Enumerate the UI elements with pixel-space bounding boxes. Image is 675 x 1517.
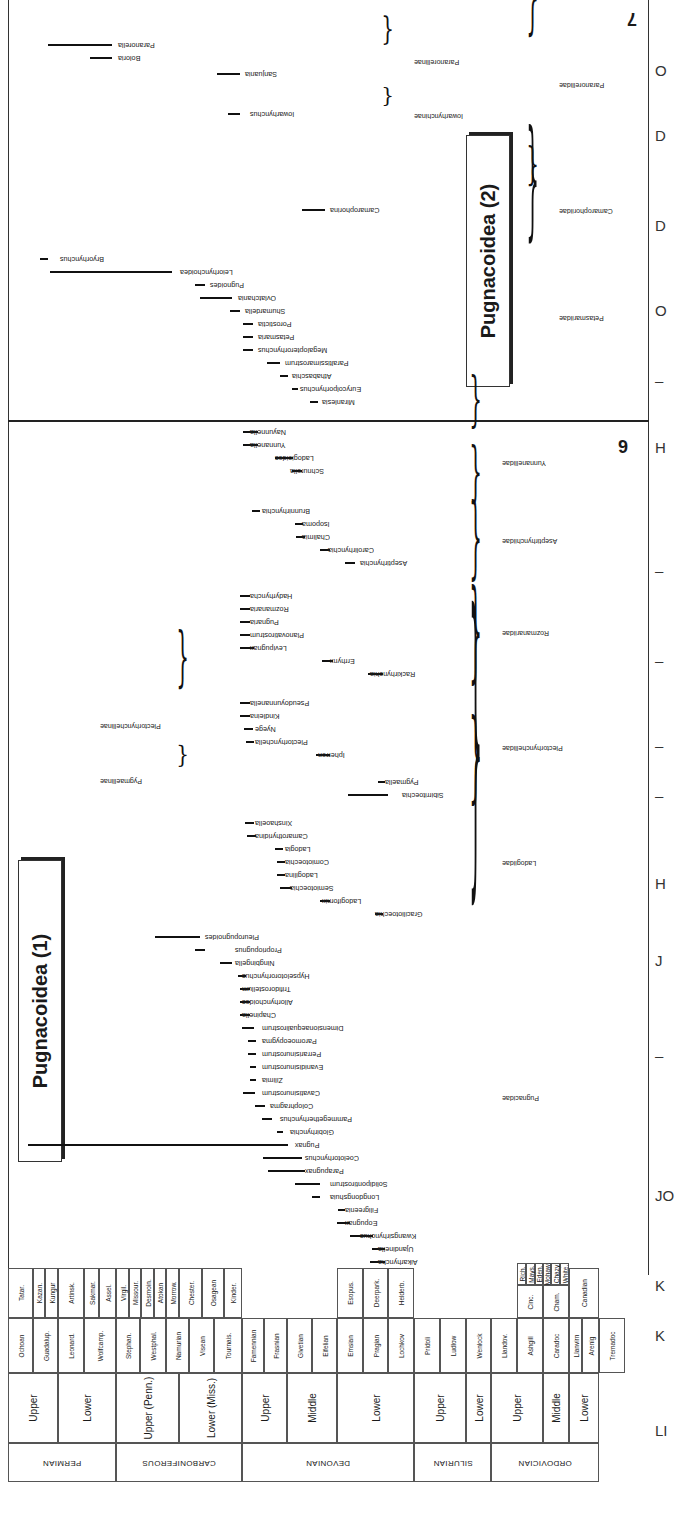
family-label: Aseptirhynchiidae [502,538,557,545]
taxon-label: Pammegetherhynchus [280,1114,352,1124]
adjacent-page-letter: K [655,1277,665,1294]
stage-cell: Eifelian [312,1318,337,1373]
taxon-range: Pseudoyunnanella [0,698,675,708]
taxon-label: Planovatirostrum [250,630,304,640]
taxon-range: Isopoma [0,519,675,529]
taxon-range: Evanidisinurostrum [0,1062,675,1072]
taxon-range: Pugnaria [0,617,675,627]
stage-cell-text: Famennian [250,1329,257,1362]
substage-cell-text: Deerpark. [372,1279,379,1308]
adjacent-page-letter: – [655,737,663,754]
taxon-label: Paranorella [118,40,155,50]
taxon-range: Solidipontirostrum [0,1179,675,1189]
taxon-range: Errhynx [0,656,675,666]
stage-cell: Caradoc [543,1318,569,1373]
taxon-label: Propriopugnus [235,945,282,955]
taxon-range: Sibirritoechia [0,790,675,800]
stage-cell: Famennian [242,1318,264,1373]
series-cell-text: Lower [579,1394,590,1421]
range-bar [244,728,253,730]
taxon-range: Camarothyridina [0,831,675,841]
brace-icon: { [526,0,539,45]
substage-cell: Missour. [129,1268,141,1318]
taxon-range: Comiotoechia [0,857,675,867]
stage-cell-text: Pragian [372,1334,379,1356]
adjacent-page-letter: – [655,562,663,579]
taxon-label: Ujandinella [378,1244,414,1254]
substage-cell: Chester. [179,1268,202,1318]
taxon-label: Graciliotoechia [375,909,423,919]
range-bar [243,349,253,351]
range-bar [248,1040,256,1042]
stage-cell-text: Leonard. [68,1333,75,1359]
brace-icon: { [526,125,539,255]
substage-cell: Chazy [551,1263,560,1285]
substage-cell: White. [560,1263,569,1285]
taxon-label: Athabaschia [292,371,332,381]
substage-cell-text: Cinc. [527,1294,534,1309]
taxon-range: Globirhynchia [0,1127,675,1137]
brace-icon: { [381,16,394,48]
substage-cell-text: Assel. [104,1284,111,1302]
taxon-label: Ladogioides [275,453,314,463]
taxon-label: Paromoeopygma [262,1036,317,1046]
taxon-range: Trifidorostellum [0,984,675,994]
taxon-label: Leiorhynchoidea [180,267,233,277]
taxon-range: Ujandinella [0,1244,675,1254]
range-bar [252,510,260,512]
taxon-label: Perrarisinurostrum [262,1049,321,1059]
taxon-range: Pammegetherhynchus [0,1114,675,1124]
substage-cell-text: White. [561,1265,568,1283]
stage-cell-text: Tremadoc [609,1331,616,1360]
taxon-range: Kwangsirhynchus [0,1231,675,1241]
stage-cell: Guadalup. [33,1318,58,1373]
adjacent-page-letter: LI [655,1422,668,1439]
taxon-range: Yunnanella [0,440,675,450]
taxon-range: Leiorhynchoidea [0,267,675,277]
substage-cell: Canadian [569,1268,599,1318]
taxon-range: Planovatirostrum [0,630,675,640]
stage-cell-text: Tournais. [225,1332,232,1358]
substage-cell: Kazan. [33,1268,45,1318]
range-bar [338,1209,345,1211]
range-bar [240,634,250,636]
range-bar [240,715,250,717]
taxon-label: Dimensionaequalirostrum [262,1023,344,1033]
range-bar [240,621,250,623]
stage-cell: Wenlock [466,1318,491,1373]
range-bar [277,874,285,876]
taxon-label: Coelotorhynchus [305,1153,359,1163]
taxon-label: Chalimia [302,532,330,542]
range-bar [310,401,318,403]
stage-cell: Emsian [337,1318,363,1373]
family-label: Yunnanellidae [502,460,546,467]
taxon-label: Megalopterorhynchus [258,345,327,355]
system-cell-text: CARBONIFEROUS [142,1458,216,1467]
taxon-label: Eurycolporhynchus [300,384,361,394]
taxon-label: Cavatisinurostrum [262,1088,320,1098]
taxon-range: Bryorhynchus [0,254,675,264]
series-cell: Upper [491,1373,543,1443]
taxon-range: Ladogioides [0,453,675,463]
range-bar [50,271,172,273]
taxon-range: Zilimia [0,1075,675,1085]
substage-cell-text: Eden. [536,1266,543,1283]
series-cell: Middle [543,1373,569,1443]
series-cell-text: Upper (Penn.) [142,1377,153,1440]
substage-cell: Deerpark. [363,1268,388,1318]
taxon-range: Chalimia [0,532,675,542]
taxon-range: Nayunnella [0,427,675,437]
taxon-range: Levipugnax [0,643,675,653]
substage-cell: Mays. [526,1263,535,1285]
taxon-range: Colophragma [0,1101,675,1111]
substage-cell-text: Rich. [518,1267,525,1282]
range-bar [240,595,250,597]
series-cell: Upper (Penn.) [116,1373,179,1443]
range-bar [195,284,205,286]
stage-cell: Ashgill [517,1318,543,1373]
substage-cell: Mohaw. [543,1263,551,1285]
taxon-label: Errhynx [330,656,355,666]
range-bar [262,1118,272,1120]
range-bar [302,209,325,211]
series-cell: Upper [414,1373,466,1443]
